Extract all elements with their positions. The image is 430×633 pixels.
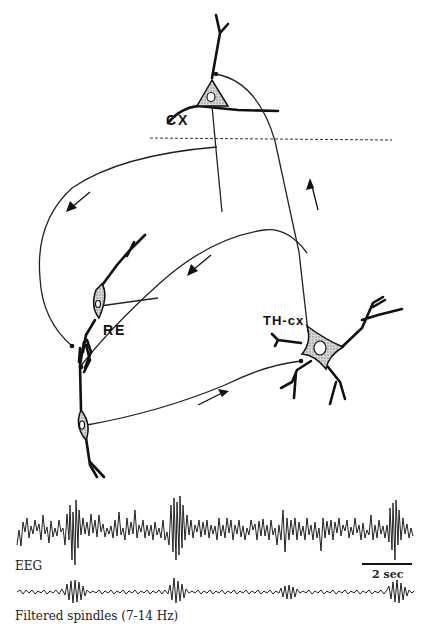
thalamocortical-circuit-diagram: CX RE TH-cx EEG 2 sec Filtered spindles …	[0, 0, 430, 633]
arrow-thcx-to-re	[187, 255, 211, 276]
eeg-trace	[17, 496, 413, 565]
filtered-spindle-trace	[17, 578, 414, 603]
arrow-re-to-thcx	[198, 389, 229, 405]
cx-to-re-axon	[39, 147, 217, 346]
cortex-boundary-line	[150, 138, 392, 140]
arrow-thcx-to-cx	[306, 178, 318, 210]
arrow-cx-to-re	[66, 192, 90, 212]
label-th-cx: TH-cx	[263, 313, 304, 328]
thcx-to-re-axon	[80, 230, 307, 367]
label-eeg: EEG	[15, 559, 42, 573]
label-scale-bar: 2 sec	[372, 568, 404, 581]
re-lower-cell	[78, 340, 104, 477]
re-to-thcx-axon	[87, 361, 301, 425]
label-re: RE	[103, 322, 126, 338]
cortical-pyramidal-cell	[168, 15, 308, 332]
label-cx: CX	[166, 112, 189, 128]
label-filtered-spindles: Filtered spindles (7-14 Hz)	[15, 609, 178, 623]
